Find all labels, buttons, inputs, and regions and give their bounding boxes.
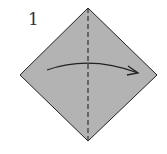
origami-diagram: [0, 0, 167, 154]
